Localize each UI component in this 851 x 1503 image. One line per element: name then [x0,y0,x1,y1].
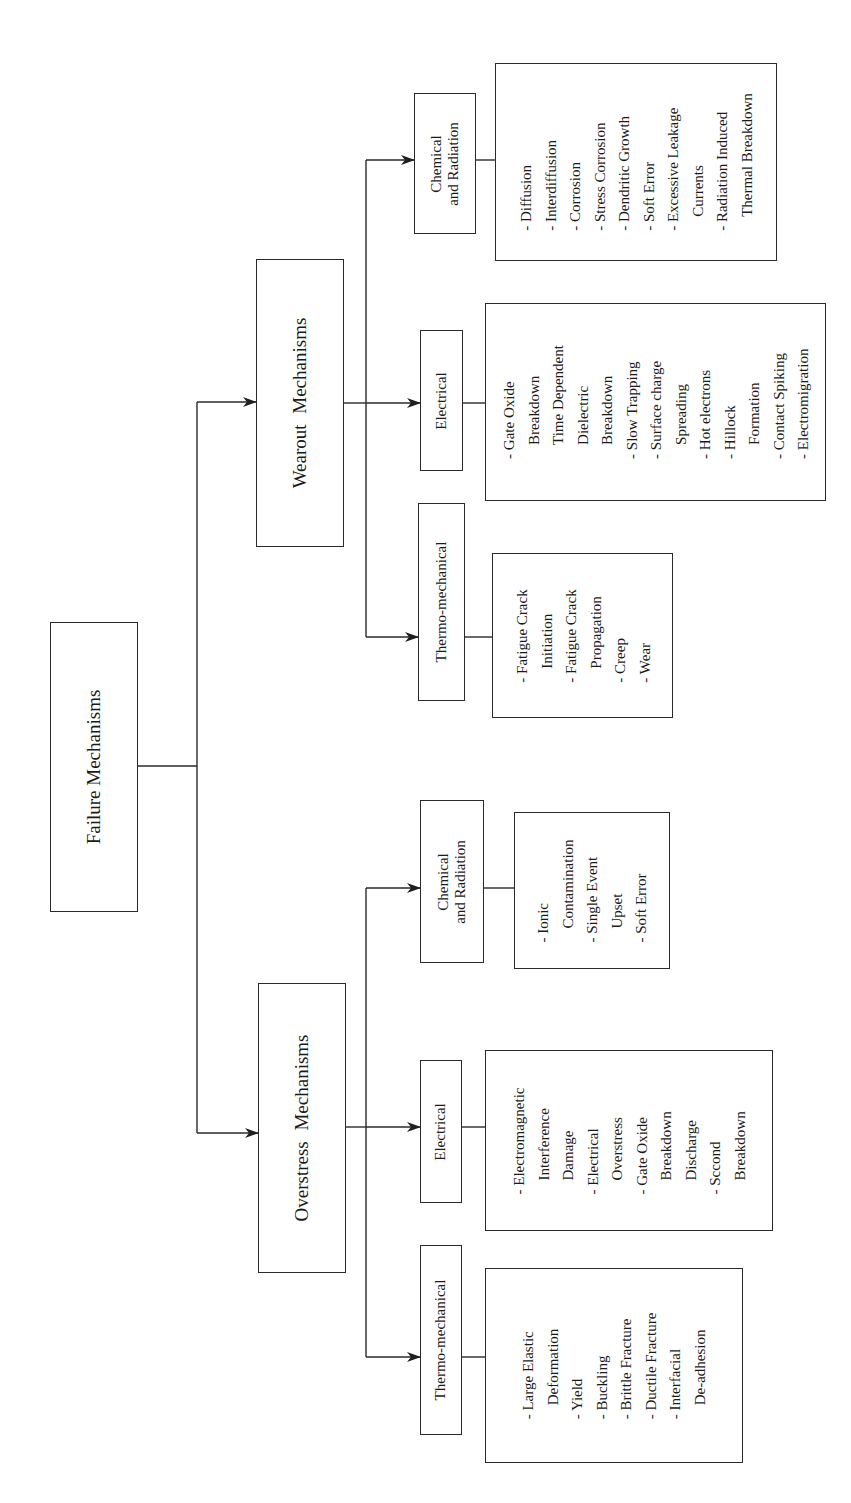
node-ov-electrical: Electrical [420,1060,462,1203]
list-item: Dielectric [570,345,595,459]
list-ov-electrical: - ElectromagneticInterferenceDamage- Ele… [485,1050,773,1231]
list-item: - Soft Error [636,93,661,231]
list-item: - Interdiffusion [538,93,563,231]
list-item: - Soft Error [629,839,654,942]
list-item: - Single Event [580,839,605,942]
root-label: Failure Mechanisms [83,690,105,845]
list-item: Propagation [583,589,608,682]
ov-chem-label-line2: and Radiation [452,840,469,924]
node-wearout-mechanisms: Wearout Mechanisms [256,259,344,547]
list-item: Initiation [534,589,559,682]
we-chem-label: Chemical and Radiation [428,122,463,206]
ov-elec-items: - ElectromagneticInterferenceDamage- Ele… [507,1087,752,1194]
node-we-electrical: Electrical [420,330,463,471]
list-item: Discharge [678,1087,703,1194]
list-we-thermo-mechanical: - Fatigue CrackInitiation- Fatigue Crack… [492,553,673,718]
list-item: Formation [741,345,766,459]
ov-thermo-items: - Large ElasticDeformation- Yield- Buckl… [516,1312,712,1419]
list-item: - Gate Oxide [629,1087,654,1194]
list-item: - Wear [632,589,657,682]
list-item: Breakdown [654,1087,679,1194]
list-item: - Creep [607,589,632,682]
list-item: - Fatigue Crack [558,589,583,682]
list-item: - Buckling [590,1312,615,1419]
list-item: - Gate Oxide [496,345,521,459]
list-item: - Sccond [703,1087,728,1194]
list-item: - Dendritic Growth [612,93,637,231]
list-item: - Diffusion [514,93,539,231]
list-item: Currents [685,93,710,231]
list-item: Contamination [555,839,580,942]
list-item: Time Dependent [545,345,570,459]
list-item: Thermal Breakdown [734,93,759,231]
overstress-label: Overstress Mechanisms [291,1035,313,1222]
node-ov-thermo-mechanical: Thermo-mechanical [420,1245,462,1435]
we-thermo-label: Thermo-mechanical [433,542,450,663]
node-we-thermo-mechanical: Thermo-mechanical [418,503,465,701]
wearout-label: Wearout Mechanisms [289,318,311,489]
list-item: - Corrosion [563,93,588,231]
we-elec-items: - Gate OxideBreakdownTime DependentDiele… [496,345,815,459]
node-overstress-mechanisms: Overstress Mechanisms [258,983,346,1273]
we-elec-label: Electrical [433,372,450,429]
list-item: - Fatigue Crack [509,589,534,682]
list-we-chemical-radiation: - Diffusion- Interdiffusion- Corrosion- … [495,63,777,261]
ov-elec-label: Electrical [432,1103,449,1160]
list-item: Breakdown [727,1087,752,1194]
list-item: - Surface charge [643,345,668,459]
list-item: - Brittle Fracture [614,1312,639,1419]
ov-thermo-label: Thermo-mechanical [432,1280,449,1401]
list-item: Deformation [541,1312,566,1419]
list-item: - Hot electrons [692,345,717,459]
list-we-electrical: - Gate OxideBreakdownTime DependentDiele… [485,303,826,501]
ov-chem-label: Chemical and Radiation [435,840,470,924]
list-item: - Excessive Leakage [661,93,686,231]
list-item: - Electromagnetic [507,1087,532,1194]
list-item: Upset [604,839,629,942]
ov-chem-label-line1: Chemical [435,840,452,924]
list-item: Spreading [668,345,693,459]
list-item: - Stress Corrosion [587,93,612,231]
we-thermo-items: - Fatigue CrackInitiation- Fatigue Crack… [509,589,656,682]
list-ov-chemical-radiation: - IonicContamination- Single EventUpset-… [514,812,670,969]
list-item: Breakdown [594,345,619,459]
list-item: - Electromigration [790,345,815,459]
list-item: - Ductile Fracture [639,1312,664,1419]
list-item: - Ionic [531,839,556,942]
list-item: Overstress [605,1087,630,1194]
node-we-chemical-radiation: Chemical and Radiation [414,93,476,234]
list-item: Damage [556,1087,581,1194]
list-item: De-adhesion [688,1312,713,1419]
list-ov-thermo-mechanical: - Large ElasticDeformation- Yield- Buckl… [485,1268,743,1463]
root-node-failure-mechanisms: Failure Mechanisms [50,622,138,912]
list-item: - Hillock [717,345,742,459]
list-item: Interference [531,1087,556,1194]
list-item: - Yield [565,1312,590,1419]
list-item: - Contact Spiking [766,345,791,459]
ov-chem-items: - IonicContamination- Single EventUpset-… [531,839,654,942]
list-item: - Slow Trapping [619,345,644,459]
list-item: - Electrical [580,1087,605,1194]
we-chem-label-line1: Chemical [428,122,445,206]
list-item: - Radiation Induced [710,93,735,231]
node-ov-chemical-radiation: Chemical and Radiation [420,800,484,963]
list-item: - Interfacial [663,1312,688,1419]
we-chem-label-line2: and Radiation [445,122,462,206]
we-chem-items: - Diffusion- Interdiffusion- Corrosion- … [514,93,759,231]
list-item: Breakdown [521,345,546,459]
list-item: - Large Elastic [516,1312,541,1419]
